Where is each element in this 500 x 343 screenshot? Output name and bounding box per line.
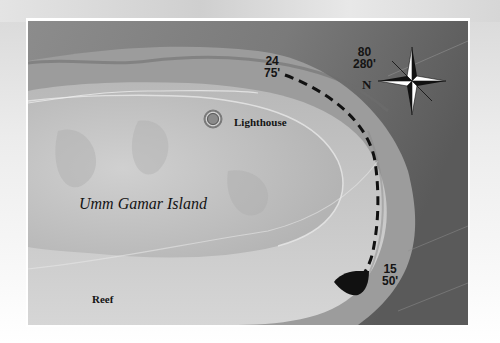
reef-label: Reef [92,294,113,305]
compass-bearing-label: 80 280' [353,46,376,70]
route-start-depth-feet: 50' [382,275,398,287]
route-end-depth-feet: 75' [264,67,280,79]
boat-icon[interactable] [332,268,372,298]
north-label: N [362,78,371,91]
lighthouse-marker-icon[interactable] [203,109,223,129]
compass-bearing-feet: 280' [353,58,376,70]
dive-site-map: 24 75' 80 280' N Lighthouse Umm Gamar Is… [28,21,468,325]
compass-rose-icon [372,41,452,121]
route-start-depth-label: 15 50' [382,263,398,287]
lighthouse-label: Lighthouse [234,117,287,128]
route-end-depth-label: 24 75' [264,55,280,79]
island-name-label: Umm Gamar Island [79,196,207,212]
